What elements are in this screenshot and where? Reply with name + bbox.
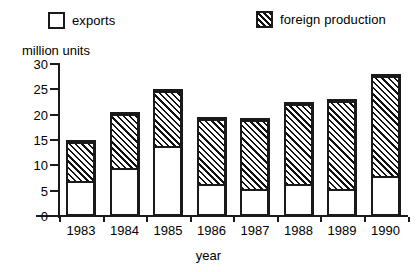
bar-segment-foreign-production-1985[interactable] (153, 89, 183, 147)
x-tick-label: 1989 (320, 224, 364, 237)
legend-label-exports: exports (72, 14, 115, 27)
y-tick-label: 30 (22, 58, 48, 71)
x-tick-mark (277, 217, 279, 222)
y-tick-label: 10 (22, 159, 48, 172)
y-tick-label: 15 (22, 134, 48, 147)
bar-segment-foreign-production-1989[interactable] (327, 99, 357, 190)
bar-segment-foreign-production-1990[interactable] (371, 74, 401, 178)
x-tick-label: 1987 (233, 224, 277, 237)
bar-segment-exports-1987[interactable] (240, 191, 270, 216)
white-square-icon (48, 12, 65, 29)
y-tick-label: 25 (22, 83, 48, 96)
bar-segment-exports-1989[interactable] (327, 191, 357, 216)
x-axis-title: year (0, 249, 417, 262)
bar-segment-foreign-production-1987[interactable] (240, 118, 270, 190)
y-tick-label: 5 (22, 185, 48, 198)
x-tick-label: 1988 (277, 224, 321, 237)
x-tick-label: 1990 (364, 224, 408, 237)
chart-page: exports foreign production million units… (0, 0, 417, 272)
y-tick-mark (50, 139, 58, 141)
y-tick-mark (50, 215, 58, 217)
x-tick-mark (59, 217, 61, 222)
y-tick-mark (50, 114, 58, 116)
bar-segment-exports-1983[interactable] (66, 183, 96, 216)
y-axis-title: million units (22, 44, 90, 57)
bar-segment-foreign-production-1984[interactable] (110, 112, 140, 170)
legend-item-exports: exports (48, 12, 115, 29)
x-tick-mark (408, 217, 410, 222)
y-tick-label: 20 (22, 109, 48, 122)
x-tick-label: 1983 (59, 224, 103, 237)
x-tick-label: 1986 (190, 224, 234, 237)
plot-area (58, 64, 408, 216)
bar-segment-exports-1990[interactable] (371, 178, 401, 216)
x-tick-mark (103, 217, 105, 222)
bar-segment-exports-1985[interactable] (153, 148, 183, 216)
y-tick-mark (50, 164, 58, 166)
x-tick-mark (320, 217, 322, 222)
x-tick-label: 1985 (146, 224, 190, 237)
y-tick-mark (50, 63, 58, 65)
bar-segment-exports-1988[interactable] (284, 186, 314, 216)
x-tick-mark (146, 217, 148, 222)
y-tick-mark (50, 190, 58, 192)
legend-item-foreign-production: foreign production (256, 11, 386, 28)
x-tick-label: 1984 (103, 224, 147, 237)
x-tick-mark (190, 217, 192, 222)
legend-label-foreign-production: foreign production (280, 13, 386, 26)
x-tick-mark (233, 217, 235, 222)
y-tick-mark (50, 88, 58, 90)
bar-segment-foreign-production-1988[interactable] (284, 102, 314, 186)
y-tick-label: 0 (22, 210, 48, 223)
bar-segment-exports-1984[interactable] (110, 170, 140, 216)
bar-segment-foreign-production-1983[interactable] (66, 140, 96, 183)
hatched-square-icon (256, 11, 273, 28)
x-tick-mark (364, 217, 366, 222)
bar-segment-exports-1986[interactable] (197, 186, 227, 216)
bar-segment-foreign-production-1986[interactable] (197, 117, 227, 185)
